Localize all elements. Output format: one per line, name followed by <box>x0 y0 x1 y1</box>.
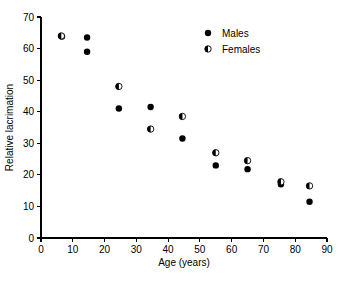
axis-titles: Age (years)Relative lacrimation <box>4 84 210 268</box>
legend-marker-male <box>205 30 211 36</box>
x-tick-label: 70 <box>258 244 270 255</box>
data-points <box>58 33 313 205</box>
y-tick-label: 50 <box>23 75 35 86</box>
y-axis-title: Relative lacrimation <box>4 84 15 171</box>
y-tick-label: 20 <box>23 169 35 180</box>
legend-entry-males: Males <box>205 28 249 39</box>
x-tick-label: 50 <box>194 244 206 255</box>
data-point-male <box>84 49 90 55</box>
axes: 0102030405060700102030405060708090 <box>23 12 333 256</box>
x-tick-label: 30 <box>131 244 143 255</box>
legend-entry-females: Females <box>205 44 261 55</box>
chart-legend: MalesFemales <box>205 28 261 55</box>
y-tick-label: 40 <box>23 106 35 117</box>
legend-marker-female <box>205 46 211 52</box>
data-point-female <box>179 113 185 119</box>
data-point-male <box>306 198 312 204</box>
scatter-chart: 0102030405060700102030405060708090 Males… <box>0 0 342 282</box>
x-tick-label: 0 <box>38 244 44 255</box>
x-tick-label: 20 <box>99 244 111 255</box>
y-tick-label: 0 <box>28 233 34 244</box>
chart-canvas: 0102030405060700102030405060708090 Males… <box>0 0 342 282</box>
plot-area: 0102030405060700102030405060708090 Males… <box>0 0 342 282</box>
data-point-female <box>306 183 312 189</box>
legend-label-females: Females <box>222 44 260 55</box>
data-point-male <box>84 34 90 40</box>
data-point-female <box>58 33 64 39</box>
x-tick-label: 40 <box>163 244 175 255</box>
y-tick-label: 70 <box>23 12 35 23</box>
series-males <box>59 33 313 205</box>
data-point-female <box>278 179 284 185</box>
x-tick-label: 60 <box>226 244 238 255</box>
series-females <box>58 33 313 189</box>
data-point-female <box>213 150 219 156</box>
data-point-female <box>147 126 153 132</box>
data-point-male <box>116 105 122 111</box>
x-tick-label: 90 <box>321 244 333 255</box>
y-tick-label: 10 <box>23 201 35 212</box>
x-axis-title: Age (years) <box>158 257 210 268</box>
y-tick-label: 30 <box>23 138 35 149</box>
data-point-female <box>244 157 250 163</box>
data-point-male <box>213 162 219 168</box>
data-point-male <box>244 166 250 172</box>
y-tick-label: 60 <box>23 43 35 54</box>
data-point-male <box>147 104 153 110</box>
data-point-male <box>179 135 185 141</box>
legend-label-males: Males <box>222 28 249 39</box>
data-point-female <box>116 83 122 89</box>
x-tick-label: 10 <box>67 244 79 255</box>
x-tick-label: 80 <box>290 244 302 255</box>
